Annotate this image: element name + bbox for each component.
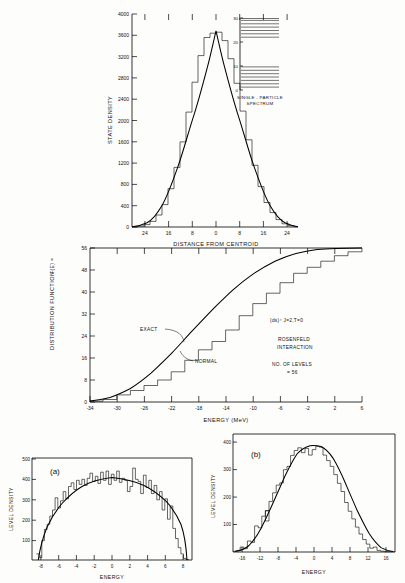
top-chart-gaussian-curve — [132, 31, 298, 227]
chart-b-gaussian-curve — [235, 445, 393, 551]
b-xtick-8: 8 — [349, 556, 352, 561]
chart-a-semicircle-curve — [38, 478, 187, 560]
top-ytick-2000: 2000 — [118, 118, 129, 124]
inset-ytick-0: 0 — [236, 88, 239, 93]
b-ytick-100: 100 — [223, 522, 231, 527]
inset-ytick-20: 20 — [233, 40, 238, 45]
middle-chart-axes — [90, 248, 362, 402]
top-ytick-2800: 2800 — [118, 75, 129, 81]
mid-xtick--18: -18 — [195, 405, 202, 411]
middle-chart-exact-step — [90, 248, 362, 401]
middle-chart-ylabel-formula: F(E) = — [49, 258, 55, 274]
bottom-left-chart: 100 200 300 400 500 -8 -6 -4 -2 0 2 4 6 … — [2, 440, 202, 583]
top-ytick-1600: 1600 — [118, 139, 129, 145]
mid-ytick-24: 24 — [81, 333, 87, 339]
mid-xtick--22: -22 — [168, 405, 175, 411]
mid-xtick--26: -26 — [141, 405, 148, 411]
chart-a-y-ticks: 100 200 300 400 500 — [22, 457, 36, 544]
mid-ytick-56: 56 — [81, 245, 87, 251]
middle-chart-normal-curve — [90, 248, 362, 401]
top-ytick-1200: 1200 — [118, 160, 129, 166]
mid-ytick-16: 16 — [81, 355, 87, 361]
top-xtick-0: 0 — [215, 230, 218, 236]
mid-ytick-40: 40 — [81, 289, 87, 295]
top-ytick-3200: 3200 — [118, 54, 129, 60]
mid-xtick--6: -6 — [278, 405, 283, 411]
inset-title-line-2: SPECTRUM — [246, 101, 273, 106]
mid-xtick--30: -30 — [114, 405, 121, 411]
b-xtick-12: 12 — [365, 556, 371, 561]
a-ytick-200: 200 — [22, 518, 30, 523]
top-xtick-24: 24 — [284, 230, 290, 236]
chart-b-plot-area — [233, 445, 395, 551]
bottom-right-chart: 100 200 300 400 -16 -12 -8 -4 0 4 8 12 1… — [203, 424, 403, 582]
top-ytick-0: 0 — [126, 224, 129, 230]
chart-a-histogram — [36, 468, 189, 559]
inset-ytick-30: 30 — [233, 16, 238, 21]
b-xtick-4: 4 — [331, 556, 334, 561]
middle-chart-x-ticks: -34 -30 -26 -22 -18 -14 -10 -6 -2 2 6 — [86, 248, 363, 411]
b-ytick-300: 300 — [223, 467, 231, 472]
chart-b-panel-label: (b) — [251, 450, 261, 459]
mid-xtick--2: -2 — [305, 405, 310, 411]
b-xtick--12: -12 — [257, 556, 264, 561]
inset-levels-lower — [241, 67, 279, 87]
mid-xtick--34: -34 — [86, 405, 93, 411]
chart-a-plot-area — [36, 468, 189, 560]
mid-anno-config-3: INTERACTION — [277, 345, 313, 350]
a-xtick-4: 4 — [146, 564, 149, 569]
mid-xtick--10: -10 — [250, 405, 257, 411]
top-chart: 0 400 800 1200 1600 2000 2400 2800 3200 … — [100, 2, 305, 250]
top-xtick--8: 8 — [191, 230, 194, 236]
mid-anno-config-5: = 56 — [287, 370, 298, 375]
a-ytick-500: 500 — [22, 457, 30, 462]
b-xtick--8: -8 — [276, 556, 281, 561]
top-chart-plot-area — [132, 31, 298, 227]
mid-ytick-32: 32 — [81, 311, 87, 317]
middle-chart-y-ticks: 0 8 16 24 32 40 48 56 — [81, 245, 95, 405]
top-chart-histogram — [132, 32, 298, 227]
chart-a-ylabel: LEVEL DENSITY — [8, 487, 14, 531]
mid-ytick-48: 48 — [81, 267, 87, 273]
mid-anno-normal: NORMAL — [195, 359, 217, 364]
top-ytick-800: 800 — [121, 181, 130, 187]
top-ytick-4000: 4000 — [118, 11, 129, 17]
top-chart-inset: 0 10 20 30 SINGLE - PARTICLE SPECTRUM — [233, 16, 283, 106]
a-xtick-0: 0 — [111, 564, 114, 569]
a-xtick-2: 2 — [129, 564, 132, 569]
middle-chart: 0 8 16 24 32 40 48 56 -34 -30 -26 -22 -1… — [32, 240, 372, 430]
a-xtick-8: 8 — [182, 564, 185, 569]
b-ytick-400: 400 — [223, 440, 231, 445]
b-xtick-0: 0 — [313, 556, 316, 561]
chart-b-ylabel: LEVEL DENSITY — [210, 474, 216, 518]
top-xtick-8: 8 — [238, 230, 241, 236]
top-xtick--24: 24 — [142, 230, 148, 236]
top-xtick-16: 16 — [261, 230, 267, 236]
mid-anno-config-2: ROSENFELD — [278, 337, 310, 342]
chart-b-y-ticks: 100 200 300 400 — [223, 440, 237, 527]
chart-b-xlabel: ENERGY — [302, 569, 326, 575]
mid-xtick--14: -14 — [222, 405, 229, 411]
top-chart-y-ticks: 0 400 800 1200 1600 2000 2400 2800 3200 … — [118, 11, 137, 230]
a-ytick-400: 400 — [22, 477, 30, 482]
a-ytick-100: 100 — [22, 538, 30, 543]
a-xtick-6: 6 — [164, 564, 167, 569]
chart-a-x-ticks: -8 -6 -4 -2 0 2 4 6 8 — [39, 555, 185, 569]
mid-xtick-6: 6 — [361, 405, 364, 411]
inset-ytick-10: 10 — [233, 64, 238, 69]
b-ytick-200: 200 — [223, 495, 231, 500]
a-xtick--6: -6 — [57, 564, 62, 569]
middle-chart-plot-area — [90, 248, 362, 401]
middle-chart-ylabel: DISTRIBUTION FUNCTION — [49, 272, 55, 350]
top-xtick--16: 16 — [166, 230, 172, 236]
mid-xtick-2: 2 — [333, 405, 336, 411]
top-ytick-2400: 2400 — [118, 96, 129, 102]
chart-b-x-ticks: -16 -12 -8 -4 0 4 8 12 16 — [239, 547, 389, 561]
inset-title-line-1: SINGLE - PARTICLE — [237, 95, 283, 100]
b-xtick-16: 16 — [383, 556, 389, 561]
a-xtick--2: -2 — [92, 564, 97, 569]
top-chart-axes — [132, 14, 298, 227]
top-ytick-400: 400 — [121, 203, 130, 209]
a-ytick-300: 300 — [22, 498, 30, 503]
mid-anno-config-4: NO. OF LEVELS — [272, 362, 312, 367]
